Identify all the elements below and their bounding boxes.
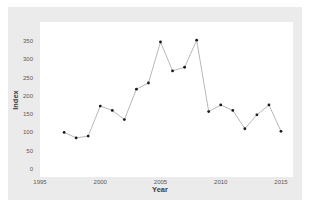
line-chart: 050100150200250300350 199520002005201020… xyxy=(0,0,311,208)
data-point-marker xyxy=(268,104,271,107)
x-tick-label: 1995 xyxy=(33,179,47,185)
plot-area xyxy=(40,22,293,177)
data-point-marker xyxy=(183,66,186,69)
y-axis-title: Index xyxy=(11,89,20,109)
data-point-marker xyxy=(231,109,234,112)
data-point-marker xyxy=(111,109,114,112)
x-axis-title: Year xyxy=(152,185,168,194)
y-tick-label: 100 xyxy=(23,129,34,135)
data-point-marker xyxy=(256,113,259,116)
y-tick-label: 150 xyxy=(23,111,34,117)
data-point-marker xyxy=(171,70,174,73)
y-tick-label: 50 xyxy=(26,148,33,154)
data-point-marker xyxy=(159,41,162,44)
y-tick-label: 250 xyxy=(23,75,34,81)
y-tick-label: 200 xyxy=(23,93,34,99)
data-point-marker xyxy=(147,82,150,85)
data-point-marker xyxy=(243,127,246,130)
x-tick-label: 2010 xyxy=(214,179,228,185)
data-point-marker xyxy=(123,118,126,121)
data-point-marker xyxy=(87,135,90,138)
data-point-marker xyxy=(280,130,283,133)
data-point-marker xyxy=(207,110,210,113)
data-point-marker xyxy=(75,136,78,139)
data-point-marker xyxy=(219,104,222,107)
data-point-marker xyxy=(195,39,198,42)
x-tick-label: 2000 xyxy=(94,179,108,185)
y-tick-label: 300 xyxy=(23,56,34,62)
chart: 050100150200250300350 199520002005201020… xyxy=(0,0,311,208)
data-point-marker xyxy=(99,105,102,108)
data-point-marker xyxy=(135,88,138,91)
data-point-marker xyxy=(63,131,66,134)
x-tick-label: 2015 xyxy=(274,179,288,185)
y-tick-label: 350 xyxy=(23,38,34,44)
